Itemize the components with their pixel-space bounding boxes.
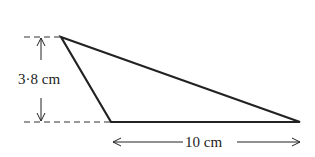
height-label: 3·8 cm [18,71,60,87]
triangle-diagram: 3·8 cm 10 cm [0,0,315,157]
base-label: 10 cm [185,134,222,150]
triangle [61,37,300,122]
